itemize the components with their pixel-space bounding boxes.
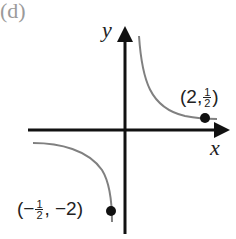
- point-label-open: (2,: [180, 86, 202, 108]
- point-label-neg-half-neg-2: (− 1 2 , −2): [17, 198, 83, 220]
- fraction-denominator: 2: [204, 98, 210, 108]
- fraction-denominator: 2: [36, 210, 42, 220]
- fraction-numerator: 1: [204, 87, 210, 97]
- point-label-close: , −2): [44, 198, 83, 220]
- y-axis-label: y: [102, 17, 112, 43]
- y-axis-arrow-icon: [117, 26, 133, 42]
- point-neg-half-neg-2: [106, 206, 116, 216]
- point-label-2-half: (2, 1 2 ): [180, 86, 219, 108]
- fraction: 1 2: [203, 87, 211, 108]
- x-axis-label: x: [210, 135, 220, 161]
- point-label-open: (−: [17, 198, 34, 220]
- fraction-numerator: 1: [36, 199, 42, 209]
- fraction: 1 2: [35, 199, 43, 220]
- point-2-half: [200, 113, 210, 123]
- point-label-close: ): [212, 86, 218, 108]
